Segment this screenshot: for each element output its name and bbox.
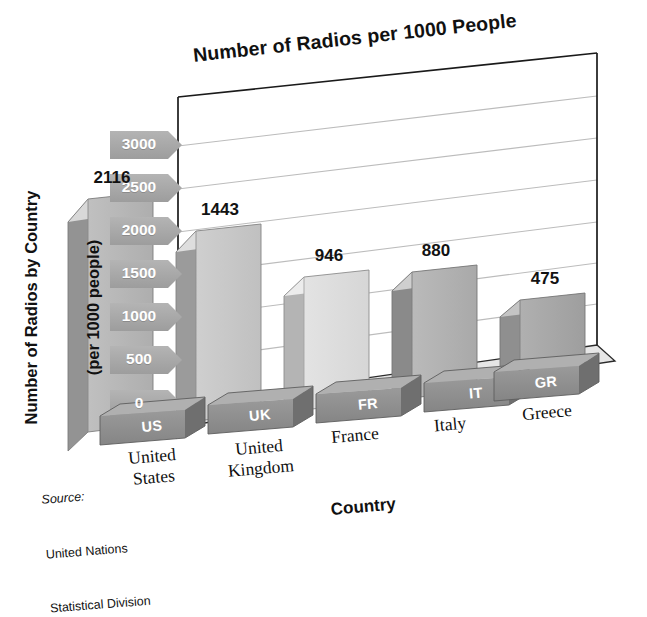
source-note-line-2: Statistical Division xyxy=(49,592,151,617)
source-note: Source: United Nations Statistical Divis… xyxy=(38,447,154,617)
y-axis-title-line-2: (per 1000 people) xyxy=(83,158,104,458)
y-tick-label-500: 500 xyxy=(108,350,170,368)
y-axis-title-line-1: Number of Radios by Country xyxy=(21,158,42,458)
value-label-france: 946 xyxy=(283,246,375,266)
value-label-united-states: 2116 xyxy=(66,168,158,188)
y-tick-label-1500: 1500 xyxy=(108,264,170,282)
y-tick-label-3000: 3000 xyxy=(108,135,170,153)
y-tick-label-0: 0 xyxy=(108,394,170,412)
value-label-united-kingdom: 1443 xyxy=(174,200,266,220)
value-label-italy: 880 xyxy=(390,241,482,261)
y-tick-label-1000: 1000 xyxy=(108,307,170,325)
source-note-line-1: United Nations xyxy=(45,537,147,563)
value-label-greece: 475 xyxy=(499,269,591,289)
source-note-lead: Source: xyxy=(41,483,143,509)
y-tick-label-2000: 2000 xyxy=(108,221,170,239)
